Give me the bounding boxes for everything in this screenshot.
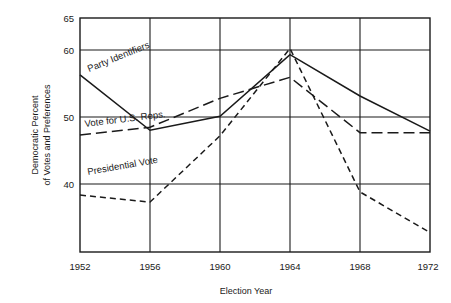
y-tick-label-65: 65 (63, 13, 74, 24)
x-tick-label-1964: 1964 (279, 261, 300, 272)
y-axis-title-line-2: of Votes and Preferences (42, 84, 52, 186)
x-tick-label-1956: 1956 (139, 261, 160, 272)
y-axis-title-line-1: Democratic Percent (30, 95, 40, 175)
x-tick-label-1972: 1972 (417, 261, 438, 272)
x-tick-label-1952: 1952 (69, 261, 90, 272)
y-axis-tick-labels: 65 60 50 40 (63, 13, 74, 190)
x-tick-label-1960: 1960 (209, 261, 230, 272)
chart-svg: 65 60 50 40 1952 1956 1960 1964 1968 197… (0, 0, 451, 303)
x-axis-tick-labels: 1952 1956 1960 1964 1968 1972 (69, 261, 438, 272)
chart-figure: 65 60 50 40 1952 1956 1960 1964 1968 197… (0, 0, 451, 303)
y-tick-label-50: 50 (63, 112, 74, 123)
y-tick-label-40: 40 (63, 179, 74, 190)
x-axis-title: Election Year (220, 286, 273, 296)
y-tick-label-60: 60 (63, 45, 74, 56)
x-tick-label-1968: 1968 (349, 261, 370, 272)
